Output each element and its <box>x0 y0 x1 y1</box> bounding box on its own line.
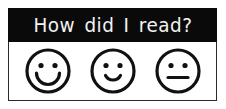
card-header-bar: How did I read? <box>8 8 217 42</box>
smiley-face-neutral-icon[interactable] <box>154 47 202 95</box>
rating-options-row <box>8 42 217 101</box>
self-assessment-card: How did I read? <box>8 8 217 101</box>
smiley-face-slight-smile-icon[interactable] <box>89 47 137 95</box>
smiley-face-happy-icon[interactable] <box>24 47 72 95</box>
page-title: How did I read? <box>33 16 192 35</box>
